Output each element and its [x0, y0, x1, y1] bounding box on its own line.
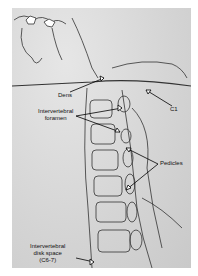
spine-drawing [12, 8, 191, 268]
label-intervertebral-foramen: Intervertebral foramen [38, 108, 73, 122]
label-disk-line3: (C6-7) [30, 257, 65, 264]
label-foramen-line2: foramen [38, 115, 73, 122]
label-c1: C1 [170, 106, 178, 113]
xray-image: Dens C1 Intervertebral foramen Pedicles … [12, 8, 191, 268]
label-disk-line2: disk space [30, 250, 65, 257]
label-dens: Dens [58, 92, 72, 99]
label-pedicles: Pedicles [160, 160, 183, 167]
label-foramen-line1: Intervertebral [38, 108, 73, 115]
label-disk-line1: Intervertebral [30, 243, 65, 250]
label-disk-space: Intervertebral disk space (C6-7) [30, 243, 65, 264]
